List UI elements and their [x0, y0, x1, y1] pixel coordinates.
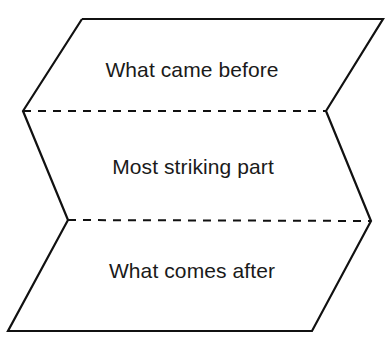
- section-label-bottom: What comes after: [109, 259, 275, 283]
- fold-line-bottom: [68, 220, 371, 221]
- section-label-middle: Most striking part: [112, 155, 274, 179]
- section-label-top: What came before: [105, 58, 278, 82]
